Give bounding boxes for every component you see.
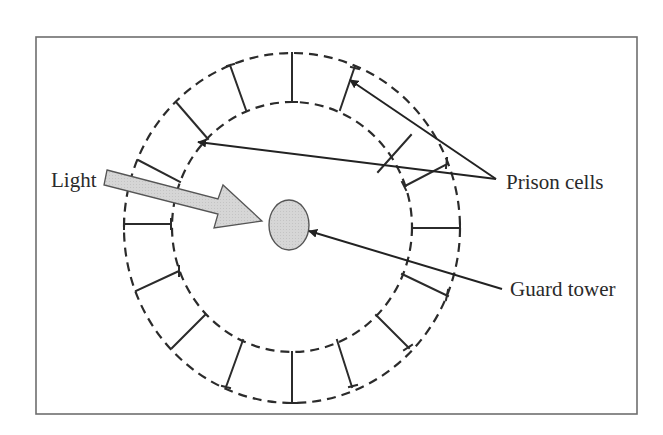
guard-tower-pointer (309, 231, 502, 289)
diagram-frame (36, 37, 637, 414)
light-label: Light (51, 170, 97, 191)
diagram-canvas (0, 0, 663, 435)
light-arrow (104, 170, 262, 228)
panopticon-diagram: Light Prison cells Guard tower (0, 0, 663, 435)
prison-cells-label: Prison cells (506, 172, 603, 193)
prison-cells-pointers (198, 80, 496, 179)
guard-tower-circle (269, 200, 309, 250)
guard-tower-label: Guard tower (510, 279, 616, 300)
